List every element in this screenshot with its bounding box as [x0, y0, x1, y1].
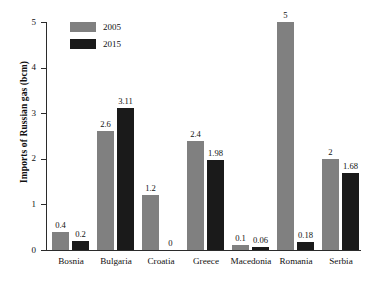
- bar-group: 0.40.2Bosnia: [52, 22, 89, 250]
- legend-swatch-2005: [70, 22, 96, 32]
- legend-label-2015: 2015: [103, 38, 121, 50]
- bar-2015-serbia: [342, 173, 359, 250]
- y-tick-label: 3: [14, 109, 36, 118]
- y-tick-label: 4: [14, 63, 36, 72]
- bar-group: 21.68Serbia: [322, 22, 359, 250]
- bar-value-label: 0.2: [64, 230, 98, 239]
- bar-2005-serbia: [322, 159, 339, 250]
- y-tick-label: 2: [14, 154, 36, 163]
- y-tick-mark: [41, 159, 46, 160]
- y-axis-line: [46, 22, 47, 250]
- bar-value-label: 0: [154, 239, 188, 248]
- y-tick-label: 1: [14, 200, 36, 209]
- bar-value-label: 5: [269, 11, 303, 20]
- y-tick-mark: [41, 113, 46, 114]
- y-tick-mark: [41, 68, 46, 69]
- bar-group: 2.63.11Bulgaria: [97, 22, 134, 250]
- bar-value-label: 0.4: [44, 221, 78, 230]
- bar-chart: Imports of Russian gas (bcm) 012345 0.40…: [0, 0, 379, 287]
- bar-2005-romania: [277, 22, 294, 250]
- bar-value-label: 0.06: [244, 236, 278, 245]
- y-tick-label: 5: [14, 18, 36, 27]
- bar-2015-macedonia: [252, 247, 269, 250]
- bar-group: 0.10.06Macedonia: [232, 22, 269, 250]
- bar-group: 50.18Romania: [277, 22, 314, 250]
- bar-2005-bulgaria: [97, 131, 114, 250]
- bar-group: 2.41.98Greece: [187, 22, 224, 250]
- bar-2015-bulgaria: [117, 108, 134, 250]
- bar-value-label: 1.68: [334, 162, 368, 171]
- bar-group: 1.20Croatia: [142, 22, 179, 250]
- plot-area: 012345 0.40.2Bosnia2.63.11Bulgaria1.20Cr…: [46, 22, 361, 250]
- legend-swatch-2015: [70, 39, 96, 49]
- bar-2015-romania: [297, 242, 314, 250]
- bar-2015-bosnia: [72, 241, 89, 250]
- y-tick-label: 0: [14, 246, 36, 255]
- y-tick-mark: [41, 250, 46, 251]
- y-tick-mark: [41, 204, 46, 205]
- legend-item-2005: 2005: [70, 21, 145, 34]
- bar-value-label: 0.18: [289, 231, 323, 240]
- y-tick-mark: [41, 22, 46, 23]
- bar-value-label: 1.2: [134, 184, 168, 193]
- legend-label-2005: 2005: [103, 21, 121, 33]
- bar-value-label: 2: [314, 148, 348, 157]
- legend: 2005 2015: [70, 21, 145, 55]
- bar-2005-macedonia: [232, 245, 249, 250]
- legend-item-2015: 2015: [70, 38, 145, 51]
- bar-value-label: 3.11: [109, 97, 143, 106]
- x-axis-line: [46, 250, 361, 251]
- bar-2015-greece: [207, 160, 224, 250]
- x-axis-label-serbia: Serbia: [303, 256, 379, 266]
- y-axis-title: Imports of Russian gas (bcm): [16, 0, 32, 247]
- bar-value-label: 2.4: [179, 130, 213, 139]
- bar-value-label: 1.98: [199, 149, 233, 158]
